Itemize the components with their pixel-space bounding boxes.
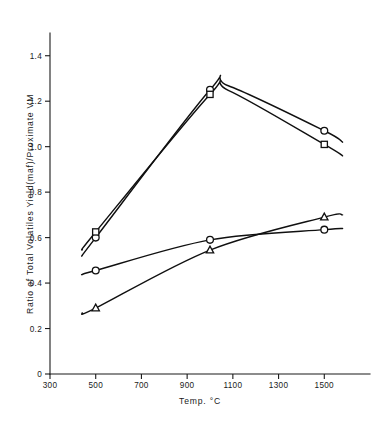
y-axis-tick-label: 1.4 <box>30 52 42 61</box>
chart-figure: 00.20.40.60.81.01.21.4 30050070090011001… <box>0 0 387 428</box>
x-axis-tick-label: 900 <box>180 381 195 390</box>
x-axis-tick-label: 1300 <box>269 381 289 390</box>
x-axis-tick-label: 300 <box>43 381 58 390</box>
x-axis-tick-label: 700 <box>134 381 149 390</box>
x-axis-tick-label: 1500 <box>315 381 335 390</box>
marker-circle <box>207 236 214 243</box>
marker-circle <box>92 267 99 274</box>
marker-circle <box>321 127 328 134</box>
chart-background <box>0 0 387 428</box>
x-axis-tick-label: 1100 <box>223 381 242 390</box>
volatiles-ratio-line-chart: 00.20.40.60.81.01.21.4 30050070090011001… <box>0 0 387 428</box>
y-axis-tick-label: 0.2 <box>30 325 42 334</box>
marker-square <box>93 229 99 235</box>
marker-square <box>207 91 213 97</box>
x-axis-tick-label: 500 <box>88 381 103 390</box>
y-axis-title: Ratio of Total Volatiles Yield(maf)/Prox… <box>25 94 35 314</box>
marker-circle <box>321 226 328 233</box>
y-axis-tick-label: 0 <box>37 370 42 379</box>
marker-square <box>321 141 327 147</box>
x-axis-title: Temp. °C <box>179 396 221 406</box>
